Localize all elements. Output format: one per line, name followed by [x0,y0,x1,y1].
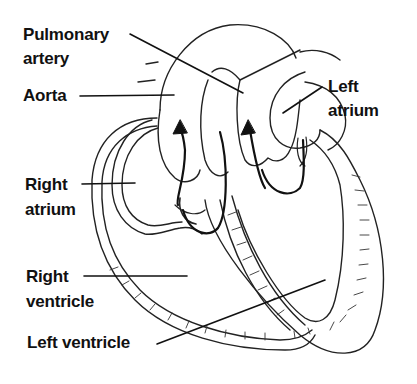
aorta-arch [160,25,296,110]
pulmonary-flow-arrow [250,130,265,188]
pulmonary-arrowhead [241,120,255,135]
label-line: atrium [328,101,379,121]
leader-left-atrium [283,87,322,113]
label-line: artery [23,49,109,69]
leader-right-atrium [82,183,135,184]
vessel-stub-2 [138,80,155,82]
label-line: Left [328,77,379,97]
label-line: atrium [25,200,76,220]
label-aorta: Aorta [23,86,66,106]
right-atrium-wall [112,120,202,234]
right-flow-curve [183,132,226,233]
label-line: ventricle [26,292,94,312]
leader-aorta [80,95,174,96]
septum-right [232,196,305,325]
aorta-flow-arrow [177,128,185,205]
pulmonary-artery-top [300,50,340,60]
label-line: Aorta [23,86,66,106]
left-ventricle-inner [238,140,343,321]
label-line: Left ventricle [27,333,130,353]
heart-diagram: Pulmonary artery Aorta Left atrium Right… [0,0,417,384]
aorta-body-right [201,80,228,176]
label-right-ventricle: Right ventricle [26,267,94,312]
label-pulmonary-artery: Pulmonary artery [23,25,109,69]
vessel-stub-1 [146,62,158,64]
myocardium-hatching [110,175,369,340]
aorta-arrowhead [173,120,187,134]
aorta-inner-top [212,50,300,80]
label-line: Pulmonary [23,25,109,45]
label-right-atrium: Right atrium [25,175,76,220]
label-left-atrium: Left atrium [328,77,379,121]
label-line: Right [25,175,76,195]
label-left-ventricle: Left ventricle [27,333,130,353]
aorta-body-left [158,110,200,182]
label-line: Right [26,267,94,287]
septum-left [220,200,290,330]
